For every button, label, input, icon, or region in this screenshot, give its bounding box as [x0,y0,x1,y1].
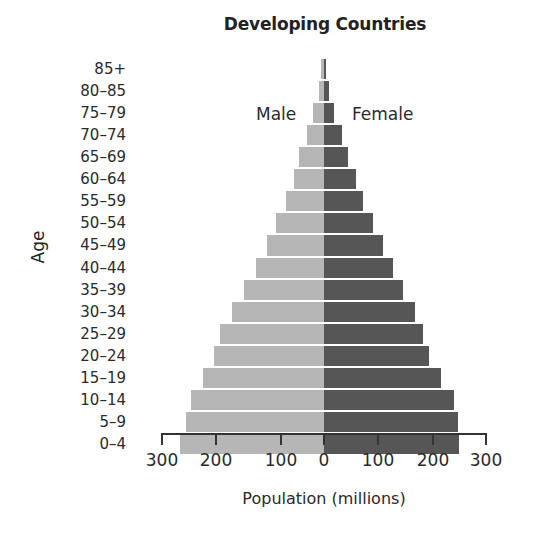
x-tick-label: 300 [137,450,187,470]
bar-female [324,302,415,322]
bar-male [191,390,324,410]
x-tick-label: 0 [299,450,349,470]
x-tick-label: 200 [408,450,458,470]
x-tick-mark [377,433,379,445]
bar-male [286,191,324,211]
bar-male [256,258,324,278]
bar-female [324,390,454,410]
y-tick-label: 40–44 [56,260,126,276]
y-tick-label: 25–29 [56,326,126,342]
x-tick-mark [161,433,163,445]
bar-male [307,125,324,145]
y-tick-label: 45–49 [56,237,126,253]
x-tick-label: 100 [353,450,403,470]
y-tick-label: 55–59 [56,193,126,209]
bar-female [324,368,441,388]
bar-female [324,213,373,233]
y-tick-label: 10–14 [56,392,126,408]
bar-female [324,412,458,432]
bar-male [186,412,324,432]
y-tick-label: 85+ [56,61,126,77]
y-tick-label: 60–64 [56,171,126,187]
x-axis-title: Population (millions) [224,489,424,508]
bar-female [324,258,393,278]
y-tick-label: 70–74 [56,127,126,143]
bar-female [324,280,403,300]
y-axis-title: Age [28,231,48,264]
bar-male [214,346,324,366]
bar-male [276,213,324,233]
y-tick-label: 20–24 [56,348,126,364]
bar-male [299,147,324,167]
y-tick-label: 50–54 [56,215,126,231]
bar-female [324,324,423,344]
chart-title: Developing Countries [0,14,538,34]
bar-female [324,125,342,145]
y-tick-label: 35–39 [56,282,126,298]
bar-female [324,81,329,101]
bar-male [232,302,324,322]
bar-female [324,346,429,366]
bar-female [324,191,363,211]
x-tick-mark [323,433,325,445]
bar-female [324,103,334,123]
x-tick-mark [215,433,217,445]
bar-female [324,147,348,167]
y-tick-label: 75–79 [56,105,126,121]
legend-male: Male [256,104,296,124]
bar-female [324,59,326,79]
bar-male [220,324,324,344]
y-tick-label: 65–69 [56,149,126,165]
bar-male [267,235,324,255]
bar-male [313,103,324,123]
bar-male [203,368,324,388]
bar-female [324,169,356,189]
y-tick-label: 30–34 [56,304,126,320]
x-tick-label: 300 [461,450,511,470]
x-tick-mark [432,433,434,445]
x-tick-mark [280,433,282,445]
legend-female: Female [352,104,413,124]
bar-female [324,235,383,255]
y-tick-label: 0–4 [56,436,126,452]
bar-male [294,169,324,189]
x-tick-label: 200 [191,450,241,470]
bar-male [244,280,324,300]
y-tick-label: 80–85 [56,83,126,99]
y-tick-label: 15–19 [56,370,126,386]
x-tick-mark [485,433,487,445]
y-tick-label: 5–9 [56,414,126,430]
